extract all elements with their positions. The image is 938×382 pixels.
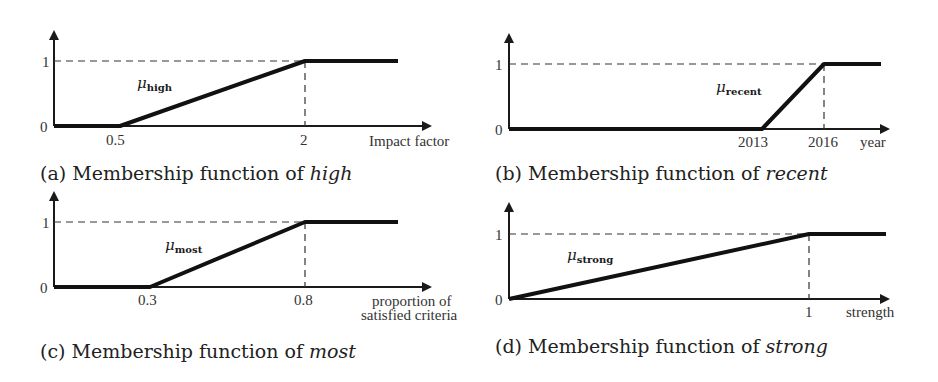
figure-canvas: 0 1 0.5 2 Impact factor μhigh 0 1 2013 2… xyxy=(0,0,938,382)
ytick-1: 1 xyxy=(42,215,50,231)
xtick-1: 1 xyxy=(805,304,813,320)
chart-a-high: 0 1 0.5 2 Impact factor μhigh xyxy=(40,32,449,149)
function-label: μstrong xyxy=(567,246,613,265)
caption-d: (d) Membership function of strong xyxy=(495,335,828,357)
ytick-0: 0 xyxy=(495,292,503,308)
x-axis-label-line2: satisfied criteria xyxy=(361,307,458,323)
xtick-0.5: 0.5 xyxy=(106,132,125,148)
ytick-1: 1 xyxy=(42,54,50,70)
xtick-0.3: 0.3 xyxy=(138,292,157,308)
x-axis-label: strength xyxy=(846,304,895,320)
membership-curve xyxy=(509,234,886,299)
ytick-1: 1 xyxy=(495,227,503,243)
caption-a: (a) Membership function of high xyxy=(40,162,352,184)
caption-c: (c) Membership function of most xyxy=(40,340,356,362)
x-axis-label: Impact factor xyxy=(369,133,449,149)
caption-b: (b) Membership function of recent xyxy=(495,162,828,184)
xtick-2: 2 xyxy=(300,132,308,148)
membership-curve xyxy=(54,222,398,287)
x-axis-label: year xyxy=(860,134,886,150)
chart-d-strong: 0 1 1 strength μstrong xyxy=(495,204,895,320)
ytick-0: 0 xyxy=(495,122,503,138)
function-label: μhigh xyxy=(137,74,173,93)
xtick-2013: 2013 xyxy=(738,134,768,150)
chart-c-most: 0 1 0.3 0.8 proportion of satisfied crit… xyxy=(40,193,458,323)
ytick-0: 0 xyxy=(40,280,48,296)
function-label: μmost xyxy=(165,236,203,255)
ytick-0: 0 xyxy=(40,119,48,135)
chart-b-recent: 0 1 2013 2016 year μrecent xyxy=(495,35,888,150)
membership-curve xyxy=(509,64,881,129)
xtick-0.8: 0.8 xyxy=(294,292,313,308)
xtick-2016: 2016 xyxy=(808,134,839,150)
function-label: μrecent xyxy=(716,78,762,97)
membership-curve xyxy=(54,61,398,126)
ytick-1: 1 xyxy=(495,57,503,73)
